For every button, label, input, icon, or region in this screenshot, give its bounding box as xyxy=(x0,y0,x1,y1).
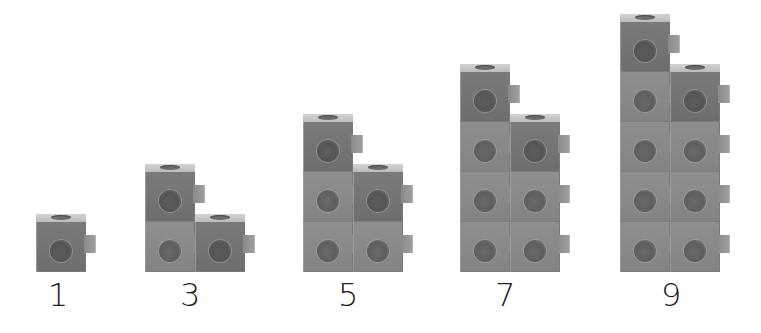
cube xyxy=(353,222,403,272)
cube-top-face xyxy=(353,164,403,172)
cube xyxy=(145,172,195,222)
cube-connector-tab-icon xyxy=(718,135,730,153)
cube xyxy=(620,122,670,172)
cube-hole-icon xyxy=(634,90,656,112)
cube-hole-icon xyxy=(634,140,656,162)
cube xyxy=(620,172,670,222)
cube xyxy=(510,222,560,272)
cube xyxy=(145,222,195,272)
cube-top-face xyxy=(303,114,353,122)
cube-top-face xyxy=(145,164,195,172)
cube-column xyxy=(195,214,245,272)
cube-hole-icon xyxy=(317,190,339,212)
cube-top-face xyxy=(36,214,86,222)
cube-hole-icon xyxy=(524,240,546,262)
cube-top-face xyxy=(670,64,720,72)
cube-hole-icon xyxy=(634,240,656,262)
cube xyxy=(620,72,670,122)
cube-connector-tab-icon xyxy=(243,235,255,253)
cube-top-hole-icon xyxy=(368,165,388,170)
cube-top-face xyxy=(460,64,510,72)
cube-connector-tab-icon xyxy=(668,35,680,53)
cube xyxy=(620,222,670,272)
cube-hole-icon xyxy=(159,240,181,262)
group-number-label: 7 xyxy=(495,279,515,311)
cube-hole-icon xyxy=(159,190,181,212)
group-number-label: 1 xyxy=(48,279,68,311)
cube xyxy=(670,122,720,172)
cube-top-hole-icon xyxy=(160,165,180,170)
cube xyxy=(303,222,353,272)
cube-top-hole-icon xyxy=(210,215,230,220)
cube xyxy=(670,172,720,222)
cube-hole-icon xyxy=(317,140,339,162)
cube-hole-icon xyxy=(684,240,706,262)
cube-top-hole-icon xyxy=(51,215,71,220)
cube xyxy=(303,172,353,222)
cube-column xyxy=(620,14,670,272)
cube-hole-icon xyxy=(634,190,656,212)
cube-top-hole-icon xyxy=(685,65,705,70)
cube-hole-icon xyxy=(524,190,546,212)
cube-connector-tab-icon xyxy=(718,85,730,103)
cube-top-face xyxy=(620,14,670,22)
cube-connector-tab-icon xyxy=(558,235,570,253)
cube-connector-tab-icon xyxy=(718,235,730,253)
cube xyxy=(303,122,353,172)
group-number-label: 5 xyxy=(338,279,358,311)
cube-hole-icon xyxy=(317,240,339,262)
cube-column xyxy=(460,64,510,272)
cube-hole-icon xyxy=(50,240,72,262)
cube-hole-icon xyxy=(474,90,496,112)
cube-top-face xyxy=(195,214,245,222)
group-number-label: 9 xyxy=(661,279,681,311)
cube-connector-tab-icon xyxy=(401,185,413,203)
group-number-label: 3 xyxy=(180,279,200,311)
cube-hole-icon xyxy=(684,190,706,212)
cube-connector-tab-icon xyxy=(508,85,520,103)
cube-hole-icon xyxy=(367,190,389,212)
cube-column xyxy=(510,114,560,272)
cube-hole-icon xyxy=(474,140,496,162)
cube-top-hole-icon xyxy=(475,65,495,70)
cube-hole-icon xyxy=(367,240,389,262)
cube xyxy=(460,222,510,272)
cube xyxy=(353,172,403,222)
cube xyxy=(36,222,86,272)
cube xyxy=(460,72,510,122)
cube-top-hole-icon xyxy=(525,115,545,120)
cube-column xyxy=(670,64,720,272)
cube-hole-icon xyxy=(474,190,496,212)
cube-connector-tab-icon xyxy=(558,185,570,203)
cube-column xyxy=(145,164,195,272)
cube-connector-tab-icon xyxy=(401,235,413,253)
cube-column xyxy=(353,164,403,272)
cube xyxy=(460,172,510,222)
cube-connector-tab-icon xyxy=(351,135,363,153)
cube-column xyxy=(303,114,353,272)
cube-top-hole-icon xyxy=(318,115,338,120)
cube xyxy=(460,122,510,172)
cube-hole-icon xyxy=(474,240,496,262)
cube-hole-icon xyxy=(634,40,656,62)
cube xyxy=(195,222,245,272)
cube-column xyxy=(36,214,86,272)
cube-connector-tab-icon xyxy=(558,135,570,153)
cube xyxy=(620,22,670,72)
cube xyxy=(670,222,720,272)
cube xyxy=(510,122,560,172)
cube-hole-icon xyxy=(209,240,231,262)
cube-hole-icon xyxy=(684,140,706,162)
cube-connector-tab-icon xyxy=(193,185,205,203)
cube-hole-icon xyxy=(524,140,546,162)
cube-connector-tab-icon xyxy=(718,185,730,203)
cube-hole-icon xyxy=(684,90,706,112)
cube xyxy=(510,172,560,222)
cube-top-face xyxy=(510,114,560,122)
cube xyxy=(670,72,720,122)
cube-top-hole-icon xyxy=(635,15,655,20)
cube-connector-tab-icon xyxy=(84,235,96,253)
